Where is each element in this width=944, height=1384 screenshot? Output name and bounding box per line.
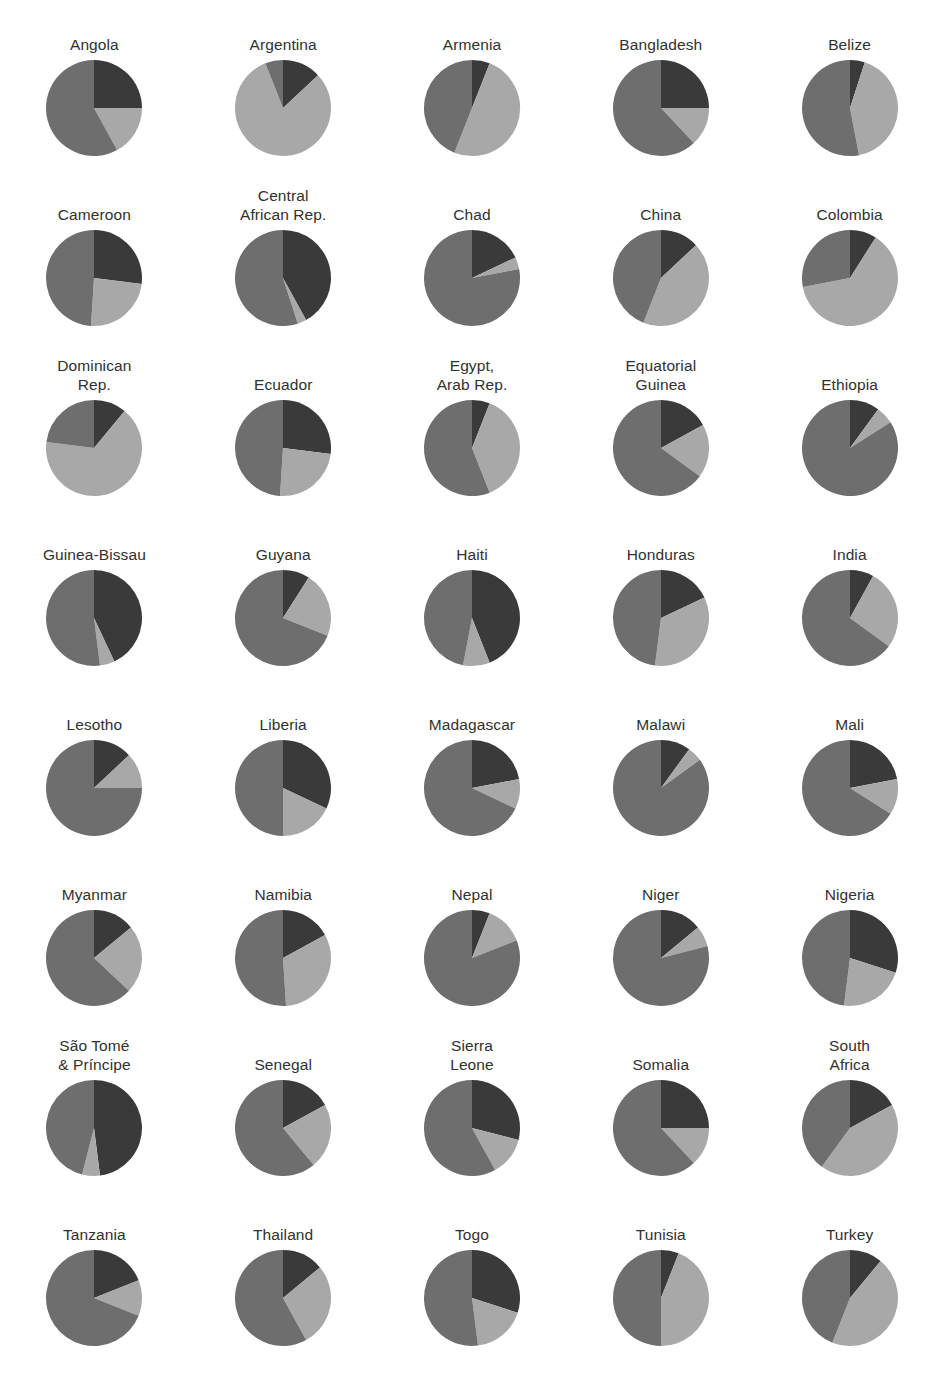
pie-panel-label: Argentina xyxy=(193,14,373,58)
figure-canvas: AngolaArgentinaArmeniaBangladeshBelizeCa… xyxy=(0,0,944,1384)
pie-panel-guinea-bissau: Guinea-Bissau xyxy=(0,524,189,694)
pie-panel-label-line: Niger xyxy=(571,885,751,904)
pie-panel-label-line: Tunisia xyxy=(571,1225,751,1244)
pie-panel-label: Thailand xyxy=(193,1204,373,1248)
pie-chart-svg xyxy=(422,1248,522,1348)
pie-chart-svg xyxy=(800,398,900,498)
pie-panel-label-line: Rep. xyxy=(4,375,184,394)
pie-chart-svg xyxy=(611,398,711,498)
pie-chart xyxy=(800,228,900,328)
pie-panel-label-line: Nepal xyxy=(382,885,562,904)
pie-panel-label-line: Tanzania xyxy=(4,1225,184,1244)
pie-panel-label-line: Chad xyxy=(382,205,562,224)
pie-chart-svg xyxy=(233,398,333,498)
pie-chart-svg xyxy=(611,568,711,668)
pie-panel-bangladesh: Bangladesh xyxy=(566,14,755,184)
pie-panel-label: China xyxy=(571,184,751,228)
pie-chart-svg xyxy=(422,228,522,328)
pie-slice-light xyxy=(280,448,331,496)
pie-panel-label-line: Central xyxy=(193,186,373,205)
pie-chart xyxy=(611,738,711,838)
pie-panel-label-line: Argentina xyxy=(193,35,373,54)
pie-chart-svg xyxy=(800,1248,900,1348)
pie-panel-china: China xyxy=(566,184,755,354)
pie-chart-svg xyxy=(44,1248,144,1348)
pie-panel-label-line: Sierra xyxy=(382,1036,562,1055)
pie-panel-guyana: Guyana xyxy=(189,524,378,694)
pie-chart xyxy=(611,58,711,158)
pie-panel-argentina: Argentina xyxy=(189,14,378,184)
pie-slice-medium xyxy=(235,400,283,496)
pie-panel-label: Bangladesh xyxy=(571,14,751,58)
pie-panel-label: Liberia xyxy=(193,694,373,738)
pie-panel-egypt-arab-rep: Egypt,Arab Rep. xyxy=(378,354,567,524)
pie-chart-svg xyxy=(422,568,522,668)
pie-chart-svg xyxy=(800,738,900,838)
pie-panel-central-african-rep: CentralAfrican Rep. xyxy=(189,184,378,354)
pie-panel-mali: Mali xyxy=(755,694,944,864)
pie-panel-label-line: Liberia xyxy=(193,715,373,734)
pie-panel-label: SierraLeone xyxy=(382,1034,562,1078)
pie-chart-svg xyxy=(233,908,333,1008)
pie-panel-label-line: Dominican xyxy=(4,356,184,375)
pie-chart xyxy=(800,1078,900,1178)
pie-chart xyxy=(233,908,333,1008)
pie-chart-svg xyxy=(233,58,333,158)
pie-grid-row: TanzaniaThailandTogoTunisiaTurkey xyxy=(0,1204,944,1374)
pie-panel-liberia: Liberia xyxy=(189,694,378,864)
pie-slice-medium xyxy=(802,230,850,287)
pie-chart-svg xyxy=(422,738,522,838)
pie-panel-label: Togo xyxy=(382,1204,562,1248)
pie-panel-label-line: Ecuador xyxy=(193,375,373,394)
pie-panel-label-line: India xyxy=(760,545,940,564)
pie-panel-cameroon: Cameroon xyxy=(0,184,189,354)
pie-chart-svg xyxy=(611,908,711,1008)
pie-panel-label: SouthAfrica xyxy=(760,1034,940,1078)
pie-panel-label: Chad xyxy=(382,184,562,228)
pie-chart-svg xyxy=(800,228,900,328)
pie-panel-label-line: Thailand xyxy=(193,1225,373,1244)
pie-panel-label: Turkey xyxy=(760,1204,940,1248)
pie-slice-medium xyxy=(613,570,661,666)
pie-chart-svg xyxy=(422,1078,522,1178)
pie-chart xyxy=(233,738,333,838)
pie-chart xyxy=(44,1078,144,1178)
pie-panel-label-line: & Príncipe xyxy=(4,1055,184,1074)
pie-panel-label-line: Malawi xyxy=(571,715,751,734)
pie-panel-label-line: Armenia xyxy=(382,35,562,54)
pie-chart xyxy=(611,568,711,668)
pie-chart xyxy=(44,398,144,498)
pie-panel-label: Guyana xyxy=(193,524,373,568)
pie-panel-label: São Tomé& Príncipe xyxy=(4,1034,184,1078)
pie-panel-label: India xyxy=(760,524,940,568)
pie-chart xyxy=(611,1248,711,1348)
pie-panel-sao-tome-principe: São Tomé& Príncipe xyxy=(0,1034,189,1204)
pie-panel-label: Mali xyxy=(760,694,940,738)
pie-chart-svg xyxy=(800,1078,900,1178)
pie-panel-india: India xyxy=(755,524,944,694)
pie-panel-label-line: Senegal xyxy=(193,1055,373,1074)
pie-chart-svg xyxy=(44,1078,144,1178)
pie-grid-row: MyanmarNamibiaNepalNigerNigeria xyxy=(0,864,944,1034)
pie-panel-ecuador: Ecuador xyxy=(189,354,378,524)
pie-panel-label: EquatorialGuinea xyxy=(571,354,751,398)
pie-panel-turkey: Turkey xyxy=(755,1204,944,1374)
pie-panel-label: Nepal xyxy=(382,864,562,908)
pie-slice-dark xyxy=(94,60,142,108)
pie-chart xyxy=(233,1078,333,1178)
pie-chart xyxy=(422,228,522,328)
pie-panel-label: Senegal xyxy=(193,1034,373,1078)
pie-panel-label-line: South xyxy=(760,1036,940,1055)
pie-chart-svg xyxy=(44,228,144,328)
pie-panel-label-line: Equatorial xyxy=(571,356,751,375)
pie-panel-label: Ethiopia xyxy=(760,354,940,398)
pie-chart-svg xyxy=(611,1078,711,1178)
pie-panel-label: Niger xyxy=(571,864,751,908)
pie-panel-label-line: São Tomé xyxy=(4,1036,184,1055)
pie-chart xyxy=(422,908,522,1008)
pie-panel-niger: Niger xyxy=(566,864,755,1034)
pie-panel-label: DominicanRep. xyxy=(4,354,184,398)
pie-panel-angola: Angola xyxy=(0,14,189,184)
pie-chart xyxy=(422,738,522,838)
pie-slice-medium xyxy=(46,570,100,666)
